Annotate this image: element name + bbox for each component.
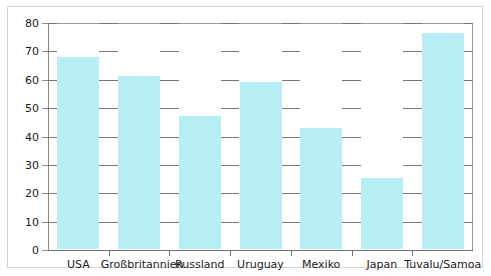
gridline-segment <box>282 137 301 138</box>
y-axis-tick-label: 30 <box>25 159 39 170</box>
gridline-segment <box>48 108 57 109</box>
gridline-segment <box>99 193 118 194</box>
bar-chart-plot-area: 01020304050607080 USAGroßbritannienRussl… <box>48 23 473 250</box>
x-axis-tick <box>109 250 110 256</box>
gridline-segment <box>48 23 57 24</box>
gridline-segment <box>403 165 422 166</box>
gridline-segment <box>403 51 422 52</box>
y-axis-tick-label: 10 <box>25 216 39 227</box>
bar <box>361 178 403 249</box>
y-axis-tick-label: 60 <box>25 74 39 85</box>
gridline-segment <box>282 193 301 194</box>
gridline-segment <box>403 80 422 81</box>
bar <box>240 82 282 249</box>
gridline-segment <box>221 165 240 166</box>
gridline-segment <box>403 23 422 24</box>
gridline-segment <box>221 108 240 109</box>
gridline-segment <box>160 137 179 138</box>
gridline-segment <box>48 51 57 52</box>
gridline-segment <box>99 23 118 24</box>
gridline-segment <box>99 80 118 81</box>
y-axis-tick-label: 0 <box>32 245 39 256</box>
gridline-segment <box>282 80 301 81</box>
gridline-segment <box>160 165 179 166</box>
x-axis-tick <box>412 250 413 256</box>
gridline-segment <box>342 80 361 81</box>
gridline-segment <box>464 108 473 109</box>
x-axis-category-label: Tuvalu/Samoa <box>404 259 481 270</box>
x-axis-tick <box>352 250 353 256</box>
y-axis-tick-label: 50 <box>25 103 39 114</box>
x-axis-tick <box>169 250 170 256</box>
gridline-segment <box>99 108 118 109</box>
gridline-segment <box>403 222 422 223</box>
gridline-segment <box>282 51 301 52</box>
gridline-segment <box>160 80 179 81</box>
gridline-segment <box>282 165 301 166</box>
y-axis-tick-label: 70 <box>25 46 39 57</box>
gridline-segment <box>342 193 361 194</box>
bar <box>300 128 342 249</box>
gridline-segment <box>48 222 57 223</box>
gridline-segment <box>160 23 179 24</box>
gridline-segment <box>282 222 301 223</box>
gridline-segment <box>99 165 118 166</box>
x-axis-tick <box>291 250 292 256</box>
gridline-segment <box>403 137 422 138</box>
y-axis-tick-label: 40 <box>25 131 39 142</box>
figure-frame: 01020304050607080 USAGroßbritannienRussl… <box>7 6 483 268</box>
gridline-segment <box>48 80 57 81</box>
y-axis-tick <box>42 250 48 251</box>
gridline-segment <box>403 108 422 109</box>
gridline-segment <box>221 23 240 24</box>
gridline-segment <box>342 137 361 138</box>
gridline-segment <box>160 51 179 52</box>
gridline-segment <box>99 222 118 223</box>
x-axis-line <box>48 250 473 251</box>
gridline-segment <box>221 193 240 194</box>
gridline-segment <box>342 222 361 223</box>
gridline-segment <box>221 137 240 138</box>
gridline-segment <box>342 51 361 52</box>
gridline-segment <box>160 193 179 194</box>
gridline-segment <box>464 23 473 24</box>
y-axis-tick-label: 80 <box>25 18 39 29</box>
bar <box>422 33 464 249</box>
gridline-segment <box>160 108 179 109</box>
gridline-segment <box>342 165 361 166</box>
gridline-segment <box>221 80 240 81</box>
gridline-segment <box>48 193 57 194</box>
gridline-segment <box>99 51 118 52</box>
gridline-segment <box>342 108 361 109</box>
gridline-segment <box>282 108 301 109</box>
gridline-segment <box>464 165 473 166</box>
x-axis-tick <box>230 250 231 256</box>
gridline-segment <box>282 23 301 24</box>
gridline-segment <box>464 222 473 223</box>
gridline-segment <box>464 80 473 81</box>
gridline-segment <box>403 193 422 194</box>
gridline-segment <box>342 23 361 24</box>
gridline-segment <box>464 193 473 194</box>
gridline-segment <box>99 137 118 138</box>
gridline-segment <box>464 51 473 52</box>
gridline-segment <box>160 222 179 223</box>
gridline-segment <box>221 51 240 52</box>
bar <box>179 116 221 249</box>
gridline-segment <box>464 137 473 138</box>
gridline-segment <box>48 165 57 166</box>
bar <box>118 76 160 249</box>
gridline-segment <box>48 137 57 138</box>
bar <box>57 57 99 249</box>
gridline-segment <box>221 222 240 223</box>
y-axis-tick-label: 20 <box>25 188 39 199</box>
